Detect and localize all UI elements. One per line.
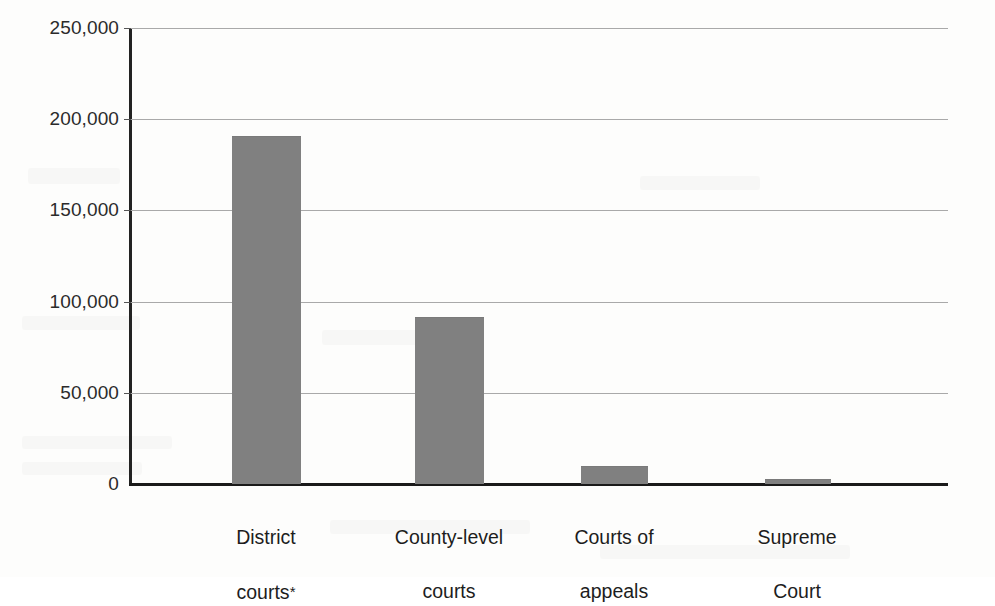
bar-supreme-court [765, 479, 831, 484]
y-tick-label: 150,000 [50, 199, 119, 221]
gridline [131, 28, 948, 29]
bar-courts-of-appeals [581, 466, 648, 484]
x-label-line-2: District courts*courts* [237, 581, 296, 603]
x-label-line-2: Court [773, 580, 821, 602]
tick-mark [124, 210, 131, 211]
gridline [131, 119, 948, 120]
bar-district-courts [232, 136, 301, 484]
tick-mark [124, 28, 131, 29]
bar-county-level-courts [415, 317, 484, 484]
x-label-county-level-courts: County-level courts [369, 497, 529, 605]
x-label-line-1: District [236, 526, 296, 548]
plot-area: 250,000 200,000 150,000 100,000 50,000 0 [131, 28, 948, 484]
x-label-supreme-court: Supreme Court [717, 497, 877, 605]
y-tick-label: 200,000 [50, 108, 119, 130]
x-label-line-1: Supreme [757, 526, 836, 548]
x-label-line-1: County-level [395, 526, 503, 548]
scan-artifact [22, 462, 142, 475]
scan-artifact [28, 168, 120, 184]
tick-mark [124, 119, 131, 120]
x-label-district-courts: District District courts*courts* [186, 497, 346, 606]
tick-mark [124, 393, 131, 394]
x-label-courts-of-appeals: Courts of appeals [534, 497, 694, 605]
y-tick-label: 100,000 [50, 291, 119, 313]
x-label-line-2: appeals [580, 580, 648, 602]
x-label-line-2: courts [422, 580, 475, 602]
y-tick-label: 50,000 [60, 382, 119, 404]
y-tick-label: 250,000 [50, 17, 119, 39]
footnote-asterisk: * [290, 583, 296, 600]
x-label-line-1: Courts of [574, 526, 653, 548]
y-tick-label: 0 [108, 473, 119, 495]
tick-mark [124, 302, 131, 303]
scan-artifact [22, 316, 140, 330]
